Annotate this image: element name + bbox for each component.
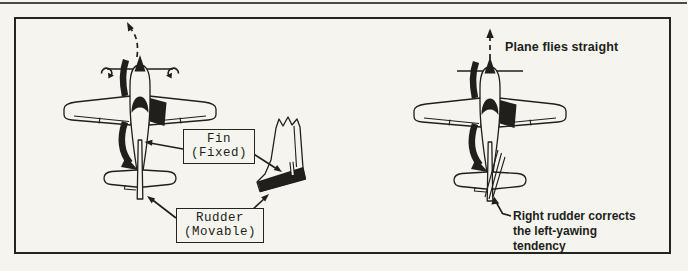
correction-label-line1: Right rudder corrects (513, 209, 636, 224)
left-yaw-arrow (127, 22, 138, 57)
yaw-correction-diagram: Fin (Fixed) Rudder (Movable) Plane flies… (0, 0, 688, 271)
fin-label-line1: Fin (191, 132, 247, 146)
rudder-label-line1: Rudder (184, 211, 256, 225)
airplane-yawing-left (64, 55, 216, 199)
right-rudder-correction-label: Right rudder corrects the left-yawing te… (513, 209, 636, 254)
fin-label-line2: (Fixed) (191, 146, 247, 160)
correction-label-line3: tendency (513, 239, 636, 254)
fin-rudder-detail-drawing (257, 117, 306, 192)
correction-leader-line (491, 197, 511, 217)
correction-label-line2: the left-yawing (513, 224, 636, 239)
fin-label-box: Fin (Fixed) (183, 129, 255, 164)
rudder-label-box: Rudder (Movable) (176, 208, 264, 243)
plane-flies-straight-label: Plane flies straight (505, 40, 618, 54)
rudder-label-line2: (Movable) (184, 225, 256, 239)
